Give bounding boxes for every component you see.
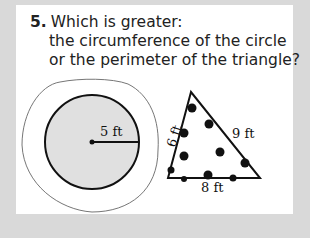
triangle-right-label: 9 ft bbox=[232, 126, 255, 141]
triangle-bottom-label: 8 ft bbox=[201, 180, 224, 195]
figures: 5 ft 9 ft 8 ft 6 ft bbox=[0, 0, 310, 238]
radius-label: 5 ft bbox=[100, 124, 123, 139]
center-point bbox=[90, 140, 95, 145]
